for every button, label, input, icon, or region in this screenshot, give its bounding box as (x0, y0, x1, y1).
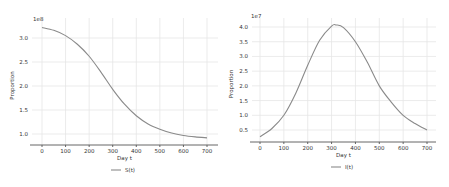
y-tick-label: 1.5 (239, 98, 248, 104)
x-tick-label: 500 (155, 148, 166, 154)
chart-susceptible: 01002003004005006007001.01.52.02.53.01e8… (9, 16, 218, 173)
x-axis-label: Day t (336, 152, 352, 159)
y-tick-label: 1.0 (239, 112, 248, 118)
x-tick-label: 700 (422, 145, 433, 151)
x-tick-label: 100 (60, 148, 71, 154)
y-tick-label: 3.0 (239, 53, 248, 59)
x-tick-label: 200 (302, 145, 313, 151)
x-tick-label: 300 (107, 148, 118, 154)
x-tick-label: 0 (40, 148, 44, 154)
y-axis-label: Proportion (9, 71, 16, 100)
x-tick-label: 600 (178, 148, 189, 154)
y-offset-label: 1e8 (33, 16, 44, 22)
y-tick-label: 4.0 (239, 24, 248, 30)
x-tick-label: 600 (398, 145, 409, 151)
x-tick-label: 100 (279, 145, 290, 151)
series-line (42, 27, 207, 137)
y-axis-label: Proportion (228, 69, 235, 98)
y-tick-label: 2.0 (19, 83, 28, 89)
y-tick-label: 2.5 (239, 68, 248, 74)
x-tick-label: 300 (326, 145, 337, 151)
chart-infected: 01002003004005006007000.51.01.52.02.53.0… (228, 13, 436, 170)
x-axis-label: Day t (117, 155, 133, 162)
y-tick-label: 1.0 (19, 131, 28, 137)
legend-label: I(t) (345, 164, 353, 170)
y-tick-label: 2.0 (239, 83, 248, 89)
y-tick-label: 3.5 (239, 39, 248, 45)
y-tick-label: 1.5 (19, 107, 28, 113)
y-tick-label: 2.5 (19, 59, 28, 65)
x-tick-label: 200 (84, 148, 95, 154)
x-tick-label: 500 (374, 145, 385, 151)
x-tick-label: 0 (258, 145, 262, 151)
figure: 01002003004005006007001.01.52.02.53.01e8… (0, 0, 449, 187)
x-tick-label: 400 (131, 148, 142, 154)
y-tick-label: 0.5 (239, 127, 248, 133)
legend-label: S(t) (125, 167, 135, 173)
x-tick-label: 700 (202, 148, 213, 154)
y-offset-label: 1e7 (251, 13, 262, 19)
x-tick-label: 400 (350, 145, 361, 151)
y-tick-label: 3.0 (19, 35, 28, 41)
